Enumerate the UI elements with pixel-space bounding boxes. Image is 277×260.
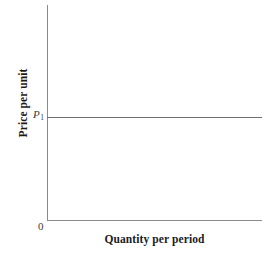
price-level-label-text: P [33,108,40,120]
x-axis-label: Quantity per period [0,234,277,246]
price-level-label-subscript: 1 [40,113,44,122]
economics-chart-figure: P1 0 Price per unit Quantity per period [0,0,277,260]
y-axis-line [47,5,48,221]
origin-label: 0 [38,221,44,232]
price-level-label: P1 [33,109,43,120]
y-axis-label: Price per unit [18,43,30,163]
perfectly-elastic-demand-line [47,117,262,118]
x-axis-line [47,220,262,221]
